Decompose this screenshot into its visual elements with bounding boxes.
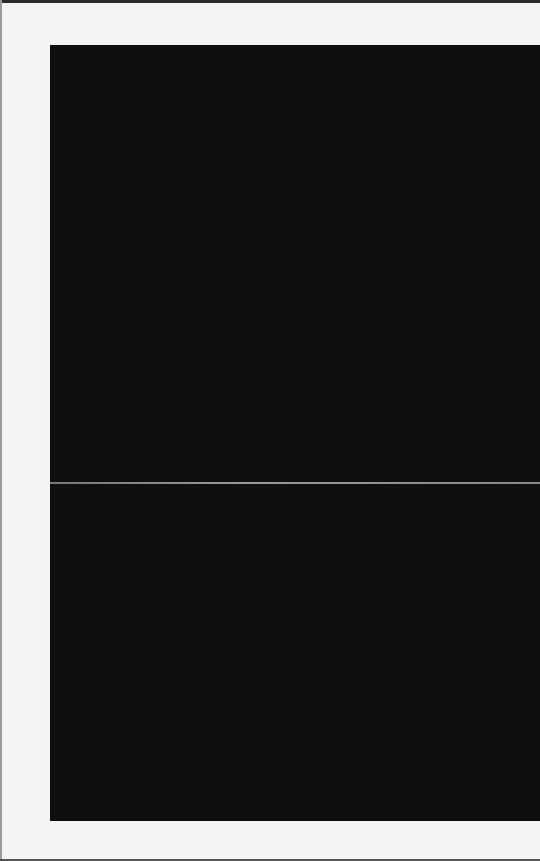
dark-panel (50, 45, 540, 821)
panel-upper-section (50, 45, 540, 482)
panel-lower-section (50, 484, 540, 821)
left-border (0, 0, 2, 861)
top-border (0, 0, 540, 3)
